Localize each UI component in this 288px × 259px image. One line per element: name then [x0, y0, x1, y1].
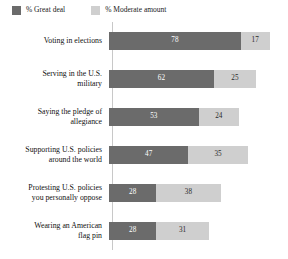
chart-row-label: Voting in elections	[0, 36, 108, 46]
chart-row-label-line: you personally oppose	[0, 193, 102, 203]
chart-row-label-line: flag pin	[0, 231, 102, 241]
stacked-bar[interactable]: 4735	[109, 146, 248, 164]
chart-row-label-line: allegiance	[0, 117, 102, 127]
chart-bar-area: 2838	[108, 174, 288, 212]
bar-value-moderate-amount: 35	[214, 151, 221, 158]
stacked-bar[interactable]: 2838	[109, 184, 221, 202]
bar-value-great-deal: 47	[145, 151, 152, 158]
chart-legend: % Great deal % Moderate amount	[0, 0, 288, 16]
chart-row-label: Serving in the U.S.military	[0, 69, 108, 89]
chart-row-label-line: around the world	[0, 155, 102, 165]
stacked-bar[interactable]: 6225	[109, 70, 256, 88]
bar-value-great-deal: 28	[129, 189, 136, 196]
legend-label-moderate-amount: % Moderate amount	[105, 6, 166, 14]
legend-label-great-deal: % Great deal	[26, 6, 65, 14]
legend-item-great-deal: % Great deal	[12, 6, 65, 15]
legend-swatch-moderate-amount-icon	[91, 6, 100, 15]
chart-row-label-line: Serving in the U.S.	[0, 69, 102, 79]
chart-bar-area: 2831	[108, 212, 288, 250]
bar-value-moderate-amount: 25	[231, 75, 238, 82]
bar-segment-great-deal[interactable]: 28	[109, 222, 156, 240]
chart-row: Serving in the U.S.military6225	[0, 60, 288, 98]
chart-bar-area: 4735	[108, 136, 288, 174]
bar-segment-great-deal[interactable]: 28	[109, 184, 156, 202]
chart-bar-area: 6225	[108, 60, 288, 98]
chart-row-label-line: Protesting U.S. policies	[0, 183, 102, 193]
chart-row-label: Supporting U.S. policiesaround the world	[0, 145, 108, 165]
bar-value-great-deal: 62	[158, 75, 165, 82]
chart-rows: Voting in elections7817Serving in the U.…	[0, 22, 288, 250]
bar-segment-great-deal[interactable]: 53	[109, 108, 199, 126]
bar-segment-moderate-amount[interactable]: 17	[241, 32, 270, 50]
bar-value-great-deal: 28	[129, 227, 136, 234]
chart-bar-area: 5324	[108, 98, 288, 136]
bar-segment-moderate-amount[interactable]: 31	[156, 222, 208, 240]
chart-row: Saying the pledge ofallegiance5324	[0, 98, 288, 136]
chart-row: Protesting U.S. policiesyou personally o…	[0, 174, 288, 212]
chart-row: Wearing an Americanflag pin2831	[0, 212, 288, 250]
chart-row: Supporting U.S. policiesaround the world…	[0, 136, 288, 174]
legend-item-moderate-amount: % Moderate amount	[91, 6, 166, 15]
chart-row-label-line: Supporting U.S. policies	[0, 145, 102, 155]
chart-row-label-line: military	[0, 79, 102, 89]
bar-segment-great-deal[interactable]: 62	[109, 70, 214, 88]
bar-segment-great-deal[interactable]: 47	[109, 146, 188, 164]
bar-value-moderate-amount: 24	[215, 113, 222, 120]
bar-value-great-deal: 78	[171, 37, 178, 44]
bar-segment-moderate-amount[interactable]: 35	[188, 146, 247, 164]
stacked-bar[interactable]: 7817	[109, 32, 270, 50]
bar-value-moderate-amount: 17	[252, 37, 259, 44]
stacked-bar[interactable]: 5324	[109, 108, 239, 126]
chart-row-label-line: Saying the pledge of	[0, 107, 102, 117]
chart-row-label: Saying the pledge ofallegiance	[0, 107, 108, 127]
chart-bar-area: 7817	[108, 22, 288, 60]
bar-value-moderate-amount: 38	[185, 189, 192, 196]
bar-value-great-deal: 53	[150, 113, 157, 120]
stacked-bar[interactable]: 2831	[109, 222, 209, 240]
chart-row: Voting in elections7817	[0, 22, 288, 60]
bar-segment-moderate-amount[interactable]: 25	[214, 70, 256, 88]
chart-row-label: Protesting U.S. policiesyou personally o…	[0, 183, 108, 203]
bar-segment-moderate-amount[interactable]: 24	[199, 108, 240, 126]
bar-segment-great-deal[interactable]: 78	[109, 32, 241, 50]
legend-swatch-great-deal-icon	[12, 6, 21, 15]
chart-row-label-line: Voting in elections	[0, 36, 102, 46]
chart-row-label: Wearing an Americanflag pin	[0, 221, 108, 241]
bar-segment-moderate-amount[interactable]: 38	[156, 184, 220, 202]
stacked-bar-chart: Voting in elections7817Serving in the U.…	[0, 22, 288, 254]
bar-value-moderate-amount: 31	[179, 227, 186, 234]
chart-row-label-line: Wearing an American	[0, 221, 102, 231]
